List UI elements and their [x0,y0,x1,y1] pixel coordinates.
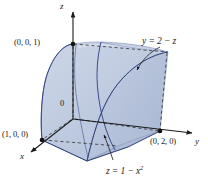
y-axis-label: y [195,137,199,146]
point-label-0-0-1: (0, 0, 1) [14,38,40,47]
dot-0-2-0 [158,129,163,134]
figure-container: z x y 0 (0, 0, 1) (1, 0, 0) (0, 2, 0) y … [0,0,208,186]
dot-0-0-1 [71,42,76,47]
dot-1-0-0 [40,138,45,143]
x-axis-label: x [20,152,24,161]
z-axis-label: z [60,2,63,11]
plane-equation-label: y = 2 − z [142,37,176,47]
solid-region-3d-figure [0,0,208,186]
point-label-0-2-0: (0, 2, 0) [150,137,176,146]
parabolic-equation-exponent: 2 [140,164,143,171]
parabolic-equation-base: z = 1 − x [106,166,140,176]
origin-label: 0 [60,99,64,108]
parabolic-cylinder-equation-label: z = 1 − x2 [106,165,143,177]
point-label-1-0-0: (1, 0, 0) [2,130,28,139]
